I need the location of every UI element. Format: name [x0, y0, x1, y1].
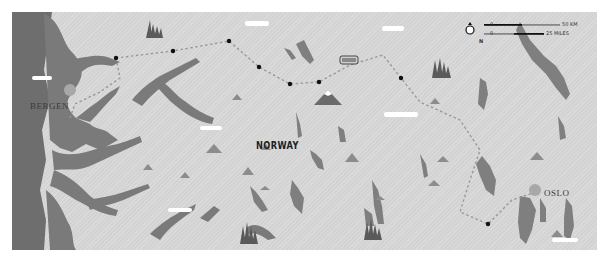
lakes: [250, 22, 574, 244]
map-terrain: [12, 12, 597, 250]
city-label-bergen: BERGEN: [30, 101, 69, 111]
snow-mountain: [314, 90, 342, 105]
city-label-oslo: OSLO: [544, 188, 570, 198]
train: [340, 56, 358, 64]
bergen-marker: [64, 84, 76, 96]
north-icon: N: [479, 38, 483, 44]
country-label: NORWAY: [256, 139, 299, 152]
oslo-marker: [529, 184, 541, 196]
norway-map[interactable]: BERGEN OSLO NORWAY N 0 50 KM 0 25 MILES: [12, 12, 597, 250]
scale-km-start: 0: [490, 21, 493, 27]
scale-miles-end: 25 MILES: [546, 30, 569, 36]
scale-km-end: 50 KM: [562, 21, 578, 27]
fjords-west: [44, 14, 276, 250]
scale-miles-start: 0: [490, 30, 493, 36]
